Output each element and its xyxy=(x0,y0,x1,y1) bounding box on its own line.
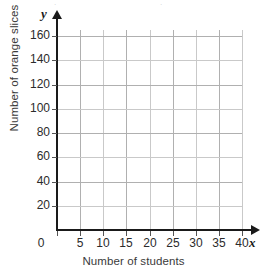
x-axis-title: Number of students xyxy=(0,255,267,267)
coordinate-grid-figure: · · y x 20406080100120140160 0 Number of… xyxy=(0,0,267,276)
x-tick-label: 20 xyxy=(138,236,162,250)
horizontal-gridline xyxy=(57,85,242,86)
y-tick-label: 20 xyxy=(12,198,50,212)
y-tick-mark xyxy=(52,60,57,61)
x-axis-arrow-icon xyxy=(251,225,260,235)
x-tick-label: 40 xyxy=(230,236,254,250)
y-tick-mark xyxy=(52,206,57,207)
horizontal-gridline xyxy=(57,109,242,110)
x-tick-mark xyxy=(57,231,58,236)
vertical-gridline xyxy=(242,30,243,230)
y-axis-arrow-icon xyxy=(52,10,62,19)
horizontal-gridline xyxy=(57,206,242,207)
horizontal-gridline xyxy=(57,157,242,158)
y-tick-mark xyxy=(52,133,57,134)
x-tick-label: 15 xyxy=(114,236,138,250)
y-axis-line xyxy=(56,18,58,231)
x-axis-line xyxy=(56,229,252,231)
y-tick-mark xyxy=(52,157,57,158)
plot-area xyxy=(57,36,242,230)
y-tick-mark xyxy=(52,182,57,183)
horizontal-gridline xyxy=(57,60,242,61)
origin-tick-label: 0 xyxy=(31,236,51,250)
crop-artifact-left: · xyxy=(54,1,56,8)
y-tick-mark xyxy=(52,36,57,37)
horizontal-gridline xyxy=(57,133,242,134)
y-tick-mark xyxy=(52,109,57,110)
x-tick-label: 10 xyxy=(91,236,115,250)
crop-artifact-right: · xyxy=(160,1,162,8)
x-tick-label: 5 xyxy=(68,236,92,250)
horizontal-gridline xyxy=(57,36,242,37)
x-tick-label: 35 xyxy=(207,236,231,250)
y-tick-label: 40 xyxy=(12,174,50,188)
horizontal-gridline xyxy=(57,182,242,183)
y-axis-title: Number of orange slices xyxy=(8,0,20,156)
x-tick-label: 30 xyxy=(184,236,208,250)
x-tick-label: 25 xyxy=(161,236,185,250)
y-tick-mark xyxy=(52,85,57,86)
